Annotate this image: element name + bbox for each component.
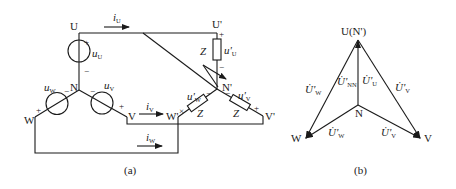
figure-a-circuit: U N W V U' N' W' V' + − uU + − uW + − uV… xyxy=(24,11,275,177)
caption-b: (b) xyxy=(354,164,367,177)
source-v-plus: + xyxy=(119,101,124,111)
load-zu-label: Z xyxy=(200,45,207,57)
load-zv-plus: + xyxy=(254,103,259,113)
source-w-minus: − xyxy=(64,86,69,96)
wire-v-line xyxy=(127,116,263,124)
phasor-uw-inner-label: U̇'W xyxy=(328,126,345,139)
source-v-label: uV xyxy=(104,79,115,92)
source-u-plus: + xyxy=(84,37,89,47)
node-w-prime-label: W' xyxy=(166,110,178,122)
figure-b-phasor: U(N') N W V U̇'W U̇'NN U̇'U U̇'V U̇'W U̇… xyxy=(291,25,432,177)
node-w-label: W xyxy=(24,114,35,126)
load-zw-plus: × xyxy=(179,106,184,116)
circuit-figure: U N W V U' N' W' V' + − uU + − uW + − uV… xyxy=(0,0,456,189)
node-v-prime-label: V' xyxy=(265,110,275,122)
current-iv-label: iV xyxy=(146,100,154,113)
load-zv-voltage: u'V xyxy=(238,89,251,102)
node-v-label: V xyxy=(128,110,136,122)
node-n-label: N xyxy=(70,81,78,93)
node-w-label-b: W xyxy=(291,132,302,144)
wire-diagonal xyxy=(143,33,217,89)
current-iu-label: iU xyxy=(113,11,121,24)
current-iw-label: iW xyxy=(146,131,156,144)
node-n-label-b: N xyxy=(355,107,363,119)
phasor-uu-label: U̇'U xyxy=(362,74,377,87)
node-v-label-b: V xyxy=(424,132,432,144)
phasor-uv-outer xyxy=(358,40,420,138)
caption-a: (a) xyxy=(124,164,137,177)
load-zw-voltage: u'W xyxy=(187,90,202,103)
load-zv-label: Z xyxy=(233,107,240,119)
source-w-plus: + xyxy=(36,105,41,115)
node-un-prime-label: U(N') xyxy=(341,25,367,38)
phasor-uv-outer-label: U̇'V xyxy=(395,81,410,94)
load-zv-minus: − xyxy=(225,88,230,98)
source-v-minus: − xyxy=(90,86,95,96)
phasor-uv-inner-label: U̇'V xyxy=(381,126,396,139)
phasor-uw-outer-label: U̇'W xyxy=(305,83,322,96)
load-zw-label: Z xyxy=(197,107,204,119)
load-zu-minus: − xyxy=(219,62,224,72)
load-zu-plus: + xyxy=(219,29,224,39)
load-zu-voltage: u'U xyxy=(224,44,237,57)
load-zw-minus: − xyxy=(206,88,211,98)
source-u-label: uU xyxy=(92,47,103,60)
wire-w-line xyxy=(35,117,178,153)
source-u-minus: − xyxy=(84,66,89,76)
resistor-z-u xyxy=(213,39,221,60)
phasor-unn-label: U̇'NN xyxy=(337,75,357,88)
node-u-label: U xyxy=(70,20,78,32)
source-w-label: uW xyxy=(44,81,57,94)
